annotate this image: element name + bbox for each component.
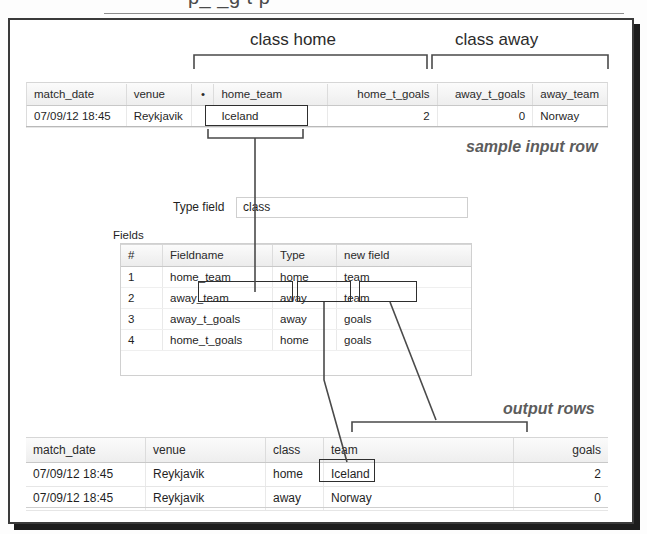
cell-away-t-goals: 0 (438, 106, 534, 127)
highlight-box-iceland-cell (205, 105, 308, 126)
col-header-type[interactable]: Type (273, 245, 337, 266)
col-header-new-field[interactable]: new field (337, 245, 471, 266)
col-header-fieldname[interactable]: Fieldname (163, 245, 273, 266)
col-header-venue[interactable]: venue (127, 84, 193, 105)
col-header-away-t-goals[interactable]: away_t_goals (438, 84, 534, 105)
sample-input-table: match_date venue • home_team home_t_goal… (26, 82, 608, 128)
label-class-away: class away (455, 30, 538, 50)
col-header-venue[interactable]: venue (146, 438, 266, 462)
cell-match-date: 07/09/12 18:45 (27, 106, 127, 127)
cell-index: 1 (121, 267, 163, 287)
col-header-match-date[interactable]: match_date (27, 84, 127, 105)
clipped-caption-text: p_ _g t p (188, 0, 270, 9)
input-table-underline (26, 126, 608, 127)
cell-type: away (273, 309, 337, 329)
cell-type: home (273, 330, 337, 350)
highlight-box-type-home (297, 281, 351, 302)
note-sample-input-row: sample input row (466, 138, 598, 156)
cell-home-t-goals: 2 (328, 106, 438, 127)
table-row[interactable]: 4 home_t_goals home goals (121, 330, 471, 351)
table-row[interactable]: 1 home_team home team (121, 267, 471, 288)
table-header-row: match_date venue class team goals (26, 437, 608, 463)
cell-match-date: 07/09/12 18:45 (26, 463, 146, 486)
label-class-home: class home (250, 30, 336, 50)
col-header-class[interactable]: class (266, 438, 324, 462)
col-header-index[interactable]: # (121, 245, 163, 266)
highlight-box-output-class-home (319, 459, 375, 482)
table-row[interactable]: 07/09/12 18:45 Reykjavik Iceland 2 0 Nor… (26, 106, 608, 128)
cell-index: 4 (121, 330, 163, 350)
cell-index: 3 (121, 309, 163, 329)
cell-new-field: goals (337, 330, 471, 350)
table-row[interactable]: 2 away_team away team (121, 288, 471, 309)
fields-section-label: Fields (113, 229, 144, 241)
cell-new-field: goals (337, 309, 471, 329)
highlight-box-new-field-team (359, 281, 417, 302)
cell-away-team: Norway (533, 106, 607, 127)
col-header-home-t-goals[interactable]: home_t_goals (328, 84, 438, 105)
table-header-row: match_date venue • home_team home_t_goal… (26, 82, 608, 106)
col-header-ellipsis[interactable]: • (192, 84, 214, 105)
type-field-label: Type field (173, 200, 224, 214)
fields-table: # Fieldname Type new field 1 home_team h… (120, 243, 472, 376)
cell-index: 2 (121, 288, 163, 308)
cell-fieldname: away_t_goals (163, 309, 273, 329)
output-table-underline (26, 507, 608, 508)
clipped-caption-strip: p_ _g t p (0, 0, 647, 14)
col-header-home-team[interactable]: home_team (214, 84, 328, 105)
cell-class: home (266, 463, 324, 486)
fields-header-row: # Fieldname Type new field (121, 244, 471, 267)
col-header-away-team[interactable]: away_team (533, 84, 607, 105)
type-field-input[interactable]: class (236, 197, 468, 218)
table-row[interactable]: 3 away_t_goals away goals (121, 309, 471, 330)
note-output-rows: output rows (503, 400, 595, 418)
cell-goals: 2 (514, 463, 608, 486)
cell-fieldname: home_t_goals (163, 330, 273, 350)
col-header-match-date[interactable]: match_date (26, 438, 146, 462)
cell-venue: Reykjavik (146, 463, 266, 486)
cell-venue: Reykjavik (127, 106, 193, 127)
top-horizontal-rule (104, 13, 624, 14)
col-header-goals[interactable]: goals (514, 438, 608, 462)
fields-table-empty-row (121, 351, 471, 375)
highlight-box-home-team-field (198, 281, 293, 302)
output-rows-table: match_date venue class team goals 07/09/… (26, 437, 608, 511)
screenshot-canvas: p_ _g t p class home class away sample i… (0, 0, 647, 534)
table-row[interactable]: 07/09/12 18:45 Reykjavik home Iceland 2 (26, 463, 608, 487)
